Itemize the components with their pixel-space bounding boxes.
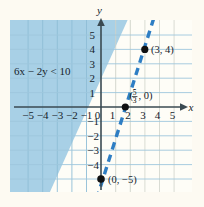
x-tick-4: 4 — [155, 109, 161, 121]
x-tick--4: −4 — [37, 109, 49, 121]
y-tick--2: −2 — [87, 130, 99, 142]
y-tick-2: 2 — [90, 72, 96, 84]
point-3-4-marker — [141, 46, 148, 53]
x-tick-2: 2 — [125, 109, 131, 121]
y-tick-4: 4 — [90, 43, 96, 55]
y-axis-label: y — [96, 4, 102, 16]
point-0--5-marker — [97, 175, 105, 183]
x-tick-3: 3 — [140, 109, 146, 121]
graph-canvas: x y −5 −4 −3 −2 −1 0 1 2 3 4 5 5 4 3 2 1… — [0, 0, 204, 207]
y-tick-3: 3 — [90, 58, 96, 70]
point-label-3-4: (3, 4) — [151, 44, 174, 56]
y-tick--3: −3 — [87, 144, 99, 156]
fraction-denominator: 3 — [133, 96, 137, 105]
y-tick-1: 1 — [90, 87, 96, 99]
inequality-graph-figure: x y −5 −4 −3 −2 −1 0 1 2 3 4 5 5 4 3 2 1… — [0, 0, 204, 207]
x-tick--3: −3 — [51, 109, 63, 121]
point-5over3-0-marker — [122, 103, 129, 110]
x-tick--5: −5 — [22, 109, 34, 121]
y-tick-5: 5 — [90, 29, 96, 41]
inequality-annotation: 6x − 2y < 10 — [14, 65, 71, 77]
y-tick--1: −1 — [87, 115, 99, 127]
x-tick--2: −2 — [66, 109, 78, 121]
x-tick-1: 1 — [110, 109, 116, 121]
x-tick-5: 5 — [170, 109, 176, 121]
x-axis-label: x — [188, 101, 194, 113]
y-tick--4: −4 — [87, 159, 99, 171]
point-label-5over3-0-rest: , 0) — [138, 90, 153, 102]
point-label-0--5: (0, −5) — [108, 174, 137, 186]
